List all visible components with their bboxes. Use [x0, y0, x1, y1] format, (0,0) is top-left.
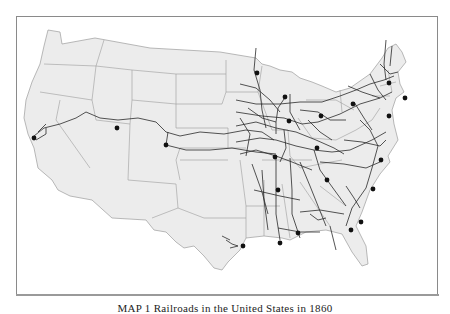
city-marker — [387, 114, 392, 119]
city-marker — [319, 114, 324, 119]
city-marker — [379, 158, 384, 163]
city-marker — [296, 231, 301, 236]
city-marker — [403, 96, 408, 101]
city-marker — [283, 95, 288, 100]
city-marker — [278, 241, 283, 246]
city-marker — [349, 228, 354, 233]
city-marker — [351, 102, 356, 107]
city-marker — [255, 71, 260, 76]
city-marker — [287, 119, 292, 124]
city-marker — [371, 187, 376, 192]
city-marker — [164, 143, 169, 148]
city-marker — [315, 146, 320, 151]
city-marker — [273, 155, 278, 160]
city-marker — [115, 126, 120, 131]
city-marker — [32, 136, 37, 141]
railroad-map — [0, 0, 450, 300]
city-marker — [359, 220, 364, 225]
city-marker — [325, 178, 330, 183]
city-marker — [241, 244, 246, 249]
city-marker — [276, 188, 281, 193]
map-caption: MAP 1 Railroads in the United States in … — [0, 302, 450, 314]
city-marker — [387, 81, 392, 86]
